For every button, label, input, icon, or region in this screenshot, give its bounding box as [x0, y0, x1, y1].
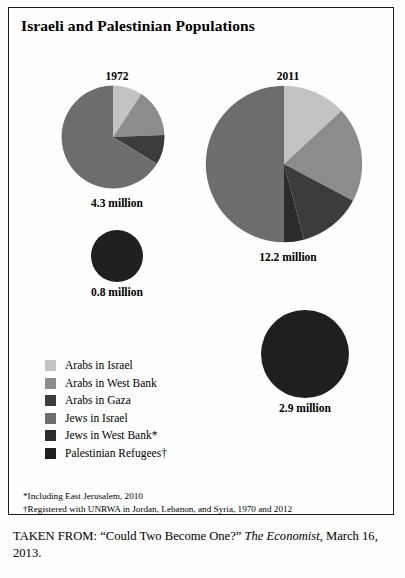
footnote-1: †Registered with UNRWA in Jordan, Lebano… — [23, 503, 385, 516]
source-citation: TAKEN FROM: “Could Two Become One?” The … — [13, 528, 395, 561]
pie-chart-2011: 2011 12.2 million — [205, 70, 371, 263]
pie-slice — [206, 86, 284, 242]
source-publication: The Economist — [245, 529, 320, 543]
legend-item-label: Jews in West Bank* — [65, 430, 157, 442]
legend-item-label: Arabs in West Bank — [65, 378, 157, 390]
refugees-1970-total-label: 0.8 million — [61, 286, 173, 298]
legend-item-label: Arabs in Israel — [65, 360, 133, 372]
figure-frame: Israeli and Palestinian Populations 1972… — [8, 7, 394, 515]
pie-chart-1972: 1972 4.3 million — [61, 70, 173, 209]
legend-swatch-icon — [45, 378, 56, 389]
legend-item-5: Palestinian Refugees† — [45, 445, 285, 463]
legend-swatch-icon — [45, 448, 56, 459]
legend-item-2: Arabs in Gaza — [45, 392, 285, 410]
pie-2011-year-label: 2011 — [205, 70, 371, 82]
legend-swatch-icon — [45, 413, 56, 424]
legend-item-4: Jews in West Bank* — [45, 427, 285, 445]
source-prefix: TAKEN FROM: “Could Two Become One?” — [13, 529, 245, 543]
legend-swatch-icon — [45, 395, 56, 406]
legend-item-label: Jews in Israel — [65, 413, 128, 425]
legend-item-1: Arabs in West Bank — [45, 375, 285, 393]
legend-item-3: Jews in Israel — [45, 410, 285, 428]
legend-item-0: Arabs in Israel — [45, 357, 285, 375]
legend: Arabs in IsraelArabs in West BankArabs i… — [45, 357, 285, 462]
footnote-0: *Including East Jerusalem, 2010 — [23, 490, 385, 503]
pie-2011-graphic — [205, 85, 363, 243]
footnotes: *Including East Jerusalem, 2010†Register… — [23, 490, 385, 515]
legend-item-label: Palestinian Refugees† — [65, 448, 167, 460]
legend-item-label: Arabs in Gaza — [65, 395, 131, 407]
legend-swatch-icon — [45, 360, 56, 371]
refugees-1970-graphic — [91, 230, 143, 282]
pie-1972-total-label: 4.3 million — [61, 197, 173, 209]
pie-2011-total-label: 12.2 million — [205, 251, 371, 263]
figure-page: Israeli and Palestinian Populations 1972… — [0, 0, 405, 578]
pie-1972-year-label: 1972 — [61, 70, 173, 82]
refugees-circle-1970: 0.8 million — [61, 230, 173, 298]
pie-1972-graphic — [61, 85, 165, 189]
legend-swatch-icon — [45, 430, 56, 441]
figure-title: Israeli and Palestinian Populations — [21, 17, 255, 35]
